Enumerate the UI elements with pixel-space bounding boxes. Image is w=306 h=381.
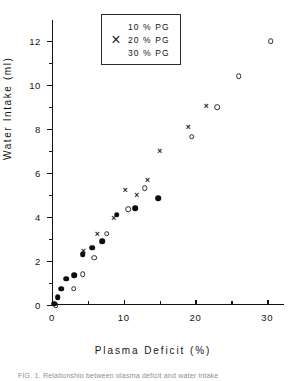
x-tick-label-0: 0	[49, 312, 55, 323]
x-tick-minor-5	[88, 301, 89, 305]
y-tick-10: 10	[47, 85, 53, 86]
data-point	[189, 134, 195, 140]
y-tick-12: 12	[47, 41, 53, 42]
x-tick-minor-25	[231, 301, 232, 305]
y-tick-label-4: 4	[35, 212, 41, 223]
y-tick-minor-7	[49, 151, 53, 152]
y-tick-minor-9	[49, 107, 53, 108]
y-tick-label-0: 0	[35, 300, 41, 311]
y-tick-label-10: 10	[29, 80, 41, 91]
x-tick-20: 20	[195, 300, 196, 306]
y-tick-label-2: 2	[35, 256, 41, 267]
scatter-plot-figure: Water Intake (ml) Plasma Deficit (%) 024…	[0, 0, 306, 381]
y-tick-minor-5	[49, 195, 53, 196]
x-tick-10: 10	[124, 300, 125, 306]
data-point	[268, 38, 274, 44]
legend-item-2: ×20 % PG	[109, 33, 175, 46]
data-point	[55, 295, 61, 301]
data-point	[142, 186, 148, 192]
x-tick-30: 30	[267, 300, 268, 306]
x-tick-label-30: 30	[261, 312, 273, 323]
data-point	[53, 302, 59, 308]
y-tick-minor-3	[49, 239, 53, 240]
legend-label: 30 % PG	[128, 48, 170, 58]
data-point	[64, 276, 70, 282]
data-point	[99, 238, 105, 244]
x-axis-title: Plasma Deficit (%)	[0, 345, 306, 356]
cross-icon: ×	[109, 31, 123, 49]
data-point: ×	[203, 103, 210, 110]
data-point	[155, 196, 161, 202]
data-point: ×	[144, 176, 151, 183]
chart-legend: 10 % PG×20 % PG30 % PG	[101, 14, 181, 65]
y-tick-label-12: 12	[29, 36, 41, 47]
data-point: ×	[122, 186, 129, 193]
data-point	[214, 104, 220, 110]
y-axis-title: Water Intake (ml)	[2, 56, 13, 160]
y-tick-label-8: 8	[35, 124, 41, 135]
y-tick-minor-1	[49, 283, 53, 284]
data-point	[92, 255, 98, 261]
data-point: ×	[133, 192, 140, 199]
data-point	[71, 273, 77, 279]
data-point	[125, 207, 131, 213]
data-point: ×	[156, 148, 163, 155]
data-point	[236, 74, 242, 80]
data-point: ×	[110, 215, 117, 222]
data-point	[71, 286, 77, 292]
legend-label: 10 % PG	[128, 22, 170, 32]
plot-area: 024681012 0102030 ×××××××××	[52, 28, 278, 305]
y-tick-6: 6	[47, 173, 53, 174]
y-tick-4: 4	[47, 217, 53, 218]
y-tick-label-6: 6	[35, 168, 41, 179]
data-point	[89, 245, 95, 251]
data-point	[132, 205, 138, 211]
figure-caption: FIG. 1. Relationship between plasma defi…	[18, 372, 290, 378]
x-tick-label-10: 10	[118, 312, 130, 323]
data-point: ×	[185, 123, 192, 130]
x-tick-label-20: 20	[190, 312, 202, 323]
x-axis-line	[52, 304, 284, 305]
data-point	[59, 286, 65, 292]
y-tick-minor-11	[49, 63, 53, 64]
y-tick-2: 2	[47, 261, 53, 262]
y-tick-8: 8	[47, 129, 53, 130]
data-point: ×	[94, 230, 101, 237]
data-point	[104, 231, 110, 237]
data-point: ×	[80, 248, 87, 255]
data-point	[80, 271, 86, 277]
x-tick-minor-15	[160, 301, 161, 305]
legend-label: 20 % PG	[128, 35, 170, 45]
